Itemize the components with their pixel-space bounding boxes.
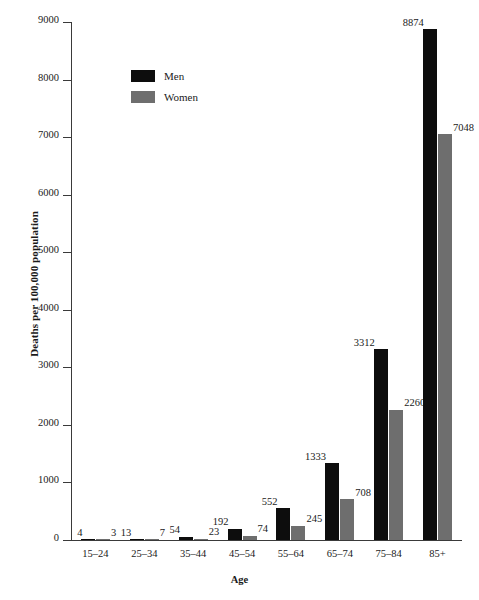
bar-value-label: 74 [258,524,269,535]
bar-men-65-74 [325,463,339,540]
y-axis-tick-label: 3000 [38,359,59,370]
bar-value-label: 7048 [453,123,474,134]
plot-area: 0100020003000400050006000700080009000431… [71,22,462,540]
bar-men-75-84 [374,349,388,540]
bar-group: 43 [81,22,110,540]
legend-swatch-women-icon [131,91,155,103]
y-axis-tick-label: 4000 [38,302,59,313]
bar-women-65-74 [340,499,354,540]
bar-women-75-84 [389,410,403,540]
y-axis-line [71,22,72,540]
x-axis-tick-label: 85+ [413,548,462,559]
bar-men-55-64 [276,508,290,540]
bar-women-35-44 [194,539,208,540]
y-axis-tick: 1000 [63,482,71,483]
bar-value-label: 13 [121,528,132,539]
bar-women-55-64 [291,526,305,540]
y-axis-tick-label: 8000 [38,72,59,83]
bar-women-25-34 [145,539,159,540]
x-axis-tick-label: 45–54 [218,548,267,559]
legend-entry-women: Women [131,91,198,103]
legend-swatch-men-icon [131,70,155,82]
bar-value-label: 8874 [403,18,424,29]
y-axis-tick-label: 9000 [38,14,59,25]
bar-men-15-24 [81,539,95,540]
bar-value-label: 708 [355,488,371,499]
x-axis-tick-label: 75–84 [364,548,413,559]
x-axis-tick-label: 55–64 [267,548,316,559]
bar-value-label: 23 [209,527,220,538]
bar-women-85+ [438,134,452,540]
bar-group: 33122260 [374,22,403,540]
y-axis-tick-label: 6000 [38,187,59,198]
bar-value-label: 2260 [404,398,425,409]
y-axis-tick-label: 0 [54,532,59,543]
bar-value-label: 552 [262,497,278,508]
y-axis-tick-label: 5000 [38,244,59,255]
y-axis-tick: 8000 [63,80,71,81]
bar-men-85+ [423,29,437,540]
bar-men-35-44 [179,537,193,540]
bar-group: 19274 [228,22,257,540]
y-axis-tick-label: 7000 [38,129,59,140]
bar-value-label: 4 [77,528,82,539]
bar-value-label: 3312 [354,338,375,349]
bar-value-label: 192 [213,517,229,528]
x-axis-tick-label: 25–34 [120,548,169,559]
bar-chart: Deaths per 100,000 population 0100020003… [0,0,479,600]
bar-men-25-34 [130,539,144,540]
x-axis-title: Age [0,574,479,585]
bar-group: 552245 [276,22,305,540]
bar-men-45-54 [228,529,242,540]
bar-value-label: 3 [111,528,116,539]
y-axis-tick: 6000 [63,195,71,196]
bar-group: 88747048 [423,22,452,540]
x-axis-line [71,540,462,541]
legend-label-men: Men [164,70,184,82]
bar-women-15-24 [96,539,110,540]
y-axis-tick: 4000 [63,310,71,311]
bar-value-label: 7 [160,528,165,539]
x-axis-tick-label: 15–24 [71,548,120,559]
y-axis-tick: 9000 [63,22,71,23]
y-axis-tick-label: 2000 [38,417,59,428]
bar-group: 1333708 [325,22,354,540]
bar-value-label: 245 [306,514,322,525]
legend-label-women: Women [164,91,198,103]
y-axis-tick: 5000 [63,252,71,253]
y-axis-tick-label: 1000 [38,474,59,485]
y-axis-tick: 0 [63,540,71,541]
x-axis-tick-label: 65–74 [315,548,364,559]
x-axis-tick-label: 35–44 [169,548,218,559]
y-axis-tick: 2000 [63,425,71,426]
legend-entry-men: Men [131,70,198,82]
legend: Men Women [131,70,198,112]
y-axis-tick: 3000 [63,367,71,368]
y-axis-tick: 7000 [63,137,71,138]
bar-value-label: 1333 [305,452,326,463]
bar-women-45-54 [243,536,257,540]
bar-value-label: 54 [170,525,181,536]
